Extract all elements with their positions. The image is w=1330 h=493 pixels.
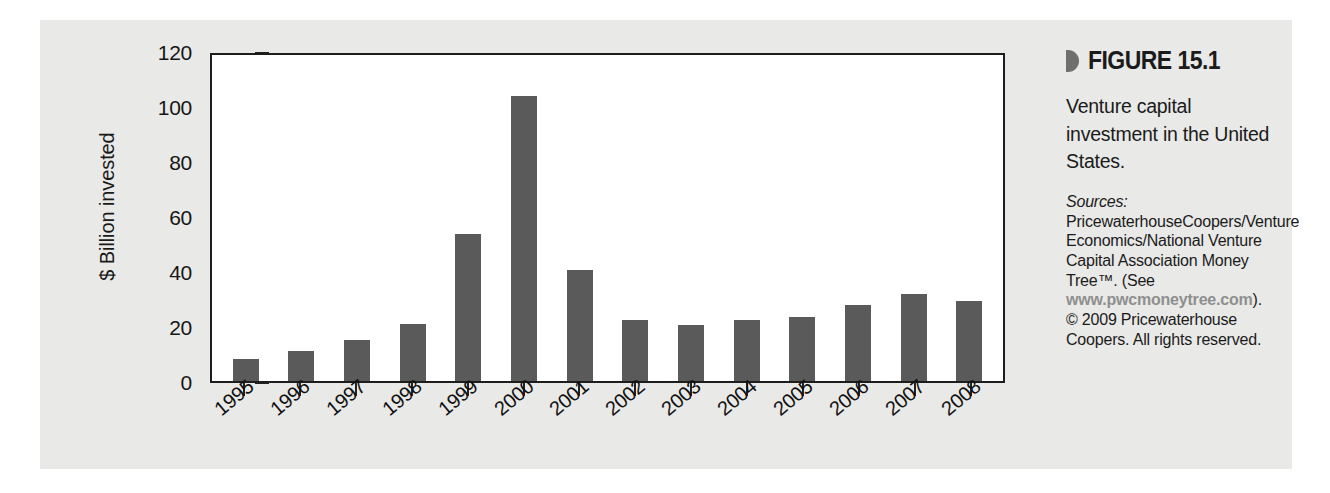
bar-chart: $ Billion invested 020406080100120 19951… xyxy=(40,20,1050,469)
bar-slot xyxy=(385,55,441,381)
sources-url[interactable]: www.pwcmoneytree.com xyxy=(1066,291,1253,308)
x-label-slot: 2005 xyxy=(775,397,831,467)
y-tick-label: 20 xyxy=(100,316,192,340)
bar-slot xyxy=(496,55,552,381)
x-label-slot: 2003 xyxy=(663,397,719,467)
bar-slot xyxy=(552,55,608,381)
bar-slot xyxy=(607,55,663,381)
x-label-slot: 1998 xyxy=(384,397,440,467)
bar xyxy=(455,234,481,381)
y-tick-label: 0 xyxy=(100,371,192,395)
bar xyxy=(901,294,927,381)
bar-slot xyxy=(441,55,497,381)
bar-series xyxy=(212,55,1003,381)
bar xyxy=(734,320,760,381)
bar xyxy=(678,325,704,381)
x-axis-labels: 1995199619971998199920002001200220032004… xyxy=(210,397,1005,467)
x-axis-tick-marks xyxy=(210,383,1005,397)
figure-caption: Venture capital investment in the United… xyxy=(1066,93,1278,176)
x-label-slot: 2004 xyxy=(719,397,775,467)
caption-column: FIGURE 15.1 Venture capital investment i… xyxy=(1052,36,1292,466)
bar-slot xyxy=(886,55,942,381)
x-label-slot: 2006 xyxy=(831,397,887,467)
bar xyxy=(400,324,426,381)
bar xyxy=(845,305,871,381)
y-axis-ticks: 020406080100120 xyxy=(100,20,192,469)
x-label-slot: 2002 xyxy=(607,397,663,467)
y-tick-label: 80 xyxy=(100,151,192,175)
bar-slot xyxy=(329,55,385,381)
plot-area xyxy=(210,53,1005,383)
bar-slot xyxy=(774,55,830,381)
y-tick-label: 60 xyxy=(100,206,192,230)
bar xyxy=(511,96,537,381)
x-label-slot: 2000 xyxy=(496,397,552,467)
x-label-slot: 2001 xyxy=(552,397,608,467)
bar-slot xyxy=(719,55,775,381)
figure-heading: FIGURE 15.1 xyxy=(1066,46,1292,75)
y-tick-label: 100 xyxy=(100,96,192,120)
bar xyxy=(622,320,648,381)
x-label-slot: 1995 xyxy=(216,397,272,467)
bar xyxy=(789,317,815,381)
bar xyxy=(567,270,593,381)
y-tick-label: 120 xyxy=(100,41,192,65)
x-label-slot: 1996 xyxy=(272,397,328,467)
sources-body: PricewaterhouseCoopers/Venture Economics… xyxy=(1066,213,1299,289)
figure-label: FIGURE 15.1 xyxy=(1088,46,1220,75)
x-label-slot: 1997 xyxy=(328,397,384,467)
figure-panel: $ Billion invested 020406080100120 19951… xyxy=(40,20,1292,469)
x-label-slot: 2007 xyxy=(887,397,943,467)
bar-slot xyxy=(941,55,997,381)
triangle-right-icon xyxy=(1066,50,1079,72)
bar xyxy=(956,301,982,381)
x-label-slot: 2008 xyxy=(943,397,999,467)
figure-sources: Sources: PricewaterhouseCoopers/Venture … xyxy=(1066,192,1282,349)
bar-slot xyxy=(218,55,274,381)
bar-slot xyxy=(274,55,330,381)
bar xyxy=(344,340,370,381)
bar-slot xyxy=(830,55,886,381)
y-tick-label: 40 xyxy=(100,261,192,285)
bar-slot xyxy=(663,55,719,381)
x-label-slot: 1999 xyxy=(440,397,496,467)
figure-screenshot: $ Billion invested 020406080100120 19951… xyxy=(0,0,1330,493)
sources-body-end: ). xyxy=(1253,291,1262,308)
sources-copyright: © 2009 Pricewaterhouse Coopers. All righ… xyxy=(1066,310,1282,349)
sources-label: Sources: xyxy=(1066,193,1128,210)
